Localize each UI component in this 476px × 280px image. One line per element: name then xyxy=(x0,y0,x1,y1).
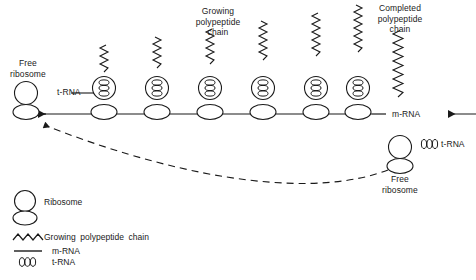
legend-glyphs xyxy=(13,191,43,267)
label-mrna: m-RNA xyxy=(392,109,420,120)
ribosome-on-mrna xyxy=(91,45,117,120)
legend-trna-beads-icon xyxy=(19,258,35,267)
legend-label-trna: t-RNA xyxy=(52,257,75,267)
free-ribosome-left xyxy=(13,82,39,120)
label-trna-free: t-RNA xyxy=(441,139,465,150)
completed-polypeptide-chain-icon xyxy=(393,31,403,98)
label-free-ribosome-right: Free ribosome xyxy=(372,174,428,195)
legend-ribosome-icon xyxy=(13,191,37,226)
legend-label-growing-polypeptide-chain: Growing polypeptide chain xyxy=(44,232,149,242)
ribosome-recycling-arrow xyxy=(44,125,388,183)
legend-label-mrna: m-RNA xyxy=(52,246,80,256)
legend-label-ribosome: Ribosome xyxy=(44,197,82,207)
legend-zigzag-chain-icon xyxy=(13,234,43,240)
label-trna-strand: t-RNA xyxy=(57,87,81,98)
translation-diagram: Free ribosome t-RNA Growing polypeptide … xyxy=(0,0,476,280)
label-free-ribosome-left: Free ribosome xyxy=(0,58,56,79)
label-growing-polypeptide-chain: Growing polypeptide chain xyxy=(178,6,258,38)
figure-caption xyxy=(6,273,306,280)
free-ribosome-right xyxy=(387,136,413,174)
ribosome-on-mrna xyxy=(197,29,223,120)
ribosome-on-mrna xyxy=(303,13,329,120)
label-completed-polypeptide-chain: Completed polypeptide chain xyxy=(360,3,440,35)
ribosome-on-mrna xyxy=(144,37,170,120)
trna-beads-icon xyxy=(421,140,437,149)
